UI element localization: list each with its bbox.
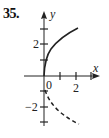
y-tick-label-2: 2 [33,37,39,51]
solid-curve [44,28,78,76]
graph: y x 0 2 2 −2 [0,0,109,138]
y-axis-arrow-icon [41,11,47,19]
x-tick-label-2: 2 [73,81,79,95]
x-axis [24,72,100,80]
y-axis-label: y [49,7,56,21]
dashed-curve [45,90,79,124]
x-axis-label: x [92,61,99,75]
y-tick-label-neg2: −2 [25,100,38,114]
origin-label: 0 [46,78,52,92]
